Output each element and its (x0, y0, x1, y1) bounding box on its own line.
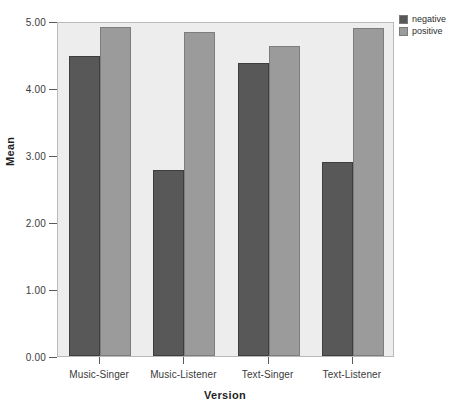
bar-negative (322, 162, 353, 356)
bar-chart-figure: Mean 0.001.002.003.004.005.00 Music-Sing… (0, 0, 452, 410)
bar-positive (269, 46, 300, 356)
x-tick (268, 357, 269, 364)
bar-group (58, 23, 142, 356)
y-tick (49, 357, 57, 358)
plot-area (57, 22, 394, 357)
x-tick-label: Music-Singer (69, 369, 129, 380)
y-tick-label: 5.00 (26, 17, 46, 28)
bar-group (227, 23, 311, 356)
x-tick-label: Text-Singer (242, 369, 294, 380)
y-tick-label: 2.00 (26, 218, 46, 229)
bar-negative (69, 56, 100, 356)
legend-swatch-icon (399, 15, 408, 24)
y-tick-label: 3.00 (26, 151, 46, 162)
legend-item[interactable]: positive (399, 26, 446, 36)
bar-positive (100, 27, 131, 356)
bar-positive (184, 32, 215, 356)
y-axis: Mean 0.001.002.003.004.005.00 (0, 0, 57, 379)
y-tick-label: 0.00 (26, 352, 46, 363)
legend: negativepositive (399, 14, 446, 36)
bar-negative (238, 63, 269, 356)
y-tick-label: 4.00 (26, 84, 46, 95)
x-axis: Music-SingerMusic-ListenerText-SingerTex… (57, 357, 394, 407)
bar-group (311, 23, 395, 356)
bars-layer (58, 23, 393, 356)
x-tick (352, 357, 353, 364)
y-tick-label: 1.00 (26, 285, 46, 296)
legend-item[interactable]: negative (399, 14, 446, 24)
y-tick (49, 223, 57, 224)
x-axis-title: Version (204, 389, 246, 401)
legend-label: positive (412, 26, 443, 36)
bar-group (142, 23, 226, 356)
x-tick-label: Music-Listener (150, 369, 216, 380)
bar-negative (153, 170, 184, 356)
x-tick (183, 357, 184, 364)
y-axis-title: Mean (4, 137, 16, 166)
y-tick (49, 89, 57, 90)
bar-positive (353, 28, 384, 356)
legend-label: negative (412, 14, 446, 24)
y-tick (49, 290, 57, 291)
x-tick-label: Text-Listener (323, 369, 382, 380)
y-tick (49, 156, 57, 157)
y-tick (49, 22, 57, 23)
legend-swatch-icon (399, 27, 408, 36)
x-tick (99, 357, 100, 364)
